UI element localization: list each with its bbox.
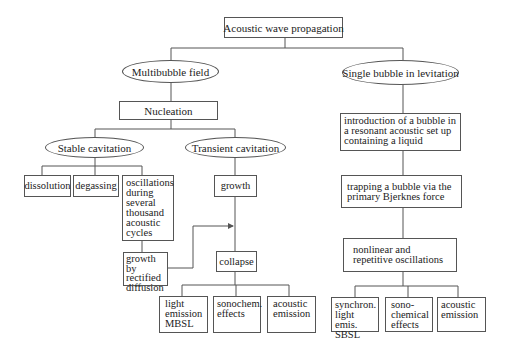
transient-cavitation-node: Transient cavitation — [185, 137, 286, 158]
growth-node: growth — [214, 175, 257, 197]
multibubble-field-node: Multibubble field — [122, 60, 219, 83]
stable-cavitation-node: Stable cavitation — [45, 137, 144, 158]
dissolution-node: dissolution — [24, 175, 71, 197]
acoustic-emission-sb-node: acoustic emission — [437, 297, 486, 332]
mbsl-node: light emission MBSL — [159, 296, 208, 333]
oscillations-node: oscillations during several thousand aco… — [122, 175, 174, 241]
nonlinear-oscillations-node: nonlinear and repetitive oscillations — [343, 238, 457, 272]
root-node: Acoustic wave propagation — [224, 17, 343, 38]
nucleation-node: Nucleation — [119, 101, 218, 120]
rectified-diffusion-node: growth by rectified diffusion — [123, 252, 168, 286]
acoustic-emission-mb-node: acoustic emission — [267, 296, 316, 333]
sbsl-node: synchron. light emis. SBSL — [331, 297, 379, 332]
collapse-node: collapse — [216, 251, 257, 272]
degassing-node: degassing — [73, 175, 119, 197]
trapping-node: trapping a bubble via the primary Bjerkn… — [341, 175, 462, 208]
introduction-node: introduction of a bubble in a resonant a… — [340, 113, 461, 151]
sonochem-effects-node: sonochem. effects — [213, 296, 261, 333]
single-bubble-node: Single bubble in levitation — [342, 60, 459, 85]
sono-chemical-effects-node: sono-chemical effects — [385, 297, 433, 332]
